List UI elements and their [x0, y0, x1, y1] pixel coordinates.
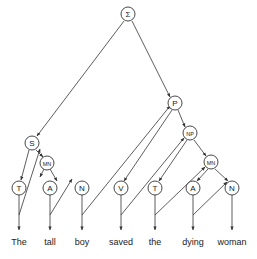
arrow-13 [178, 110, 185, 127]
node-a2: A [186, 181, 200, 195]
word-4: the [149, 237, 162, 247]
arrow-12 [124, 110, 172, 181]
node-label: N [229, 184, 235, 193]
node-label: MN [43, 161, 52, 167]
node-a1: A [43, 181, 57, 195]
arrow-11 [82, 106, 170, 215]
parse-tree-diagram: ΣSMNTANPNPMNVTAN Thetallboysavedthedying… [0, 0, 257, 259]
node-p: P [168, 96, 182, 110]
arrow-0 [37, 21, 124, 136]
node-n2: N [225, 181, 239, 195]
arrow-15 [121, 138, 184, 215]
node-s: S [25, 136, 39, 150]
node-label: A [190, 184, 196, 193]
arrow-5 [50, 169, 57, 181]
node-v: V [114, 181, 128, 195]
traversal-arrows [19, 21, 232, 230]
node-label: V [118, 184, 124, 193]
word-1: tall [44, 237, 56, 247]
node-t2: T [148, 181, 162, 195]
tree-nodes: ΣSMNTANPNPMNVTAN [12, 7, 239, 195]
node-np: NP [183, 126, 197, 140]
word-5: dying [182, 237, 204, 247]
word-3: saved [109, 237, 133, 247]
node-label: T [153, 184, 158, 193]
arrow-16 [159, 140, 187, 181]
node-label: A [47, 184, 53, 193]
word-2: boy [75, 237, 90, 247]
node-label: P [172, 99, 177, 108]
node-root: Σ [121, 7, 135, 21]
arrow-17 [194, 140, 206, 156]
node-label: N [79, 184, 85, 193]
node-t1: T [12, 181, 26, 195]
node-label: Σ [126, 10, 131, 19]
arrow-1 [132, 21, 170, 97]
node-label: MN [207, 160, 216, 166]
node-label: NP [186, 131, 194, 137]
node-mn1: MN [40, 156, 54, 170]
sentence-words: Thetallboysavedthedyingwoman [11, 237, 246, 247]
arrow-4 [40, 169, 44, 177]
node-label: S [29, 139, 34, 148]
arrow-20 [197, 169, 208, 181]
node-mn2: MN [204, 155, 218, 169]
word-0: The [11, 237, 27, 247]
word-6: woman [216, 237, 246, 247]
node-n1: N [75, 181, 89, 195]
node-label: T [17, 184, 22, 193]
arrow-21 [215, 169, 228, 181]
arrow-2 [21, 150, 29, 180]
